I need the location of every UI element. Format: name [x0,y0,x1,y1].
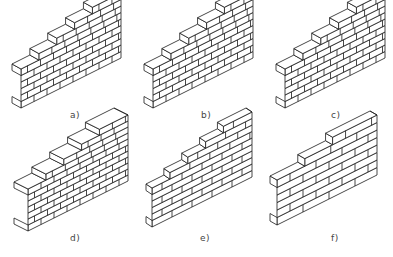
panel-label-c: c) [331,110,340,120]
course-end-face [276,97,285,109]
brick-wall-a [0,0,130,110]
panel-label-e: e) [200,233,210,243]
panel-label-f: f) [331,233,339,243]
course-end-face [144,97,153,109]
brick-wall-c [260,0,390,110]
panel-label-a: a) [70,110,80,120]
panel-label-d: d) [70,233,80,243]
course-end-face [12,97,21,109]
course-end-face [14,218,28,231]
brick-wall-d [0,125,130,235]
brick-wall-b [130,0,260,110]
panel-label-b: b) [201,110,211,120]
brick-wall-f [260,125,390,235]
brick-wall-diagram: a) b) c) d) e) f) [0,0,393,257]
course-end-face [270,214,277,226]
course-end-face [146,217,152,228]
brick-wall-e [130,125,260,235]
